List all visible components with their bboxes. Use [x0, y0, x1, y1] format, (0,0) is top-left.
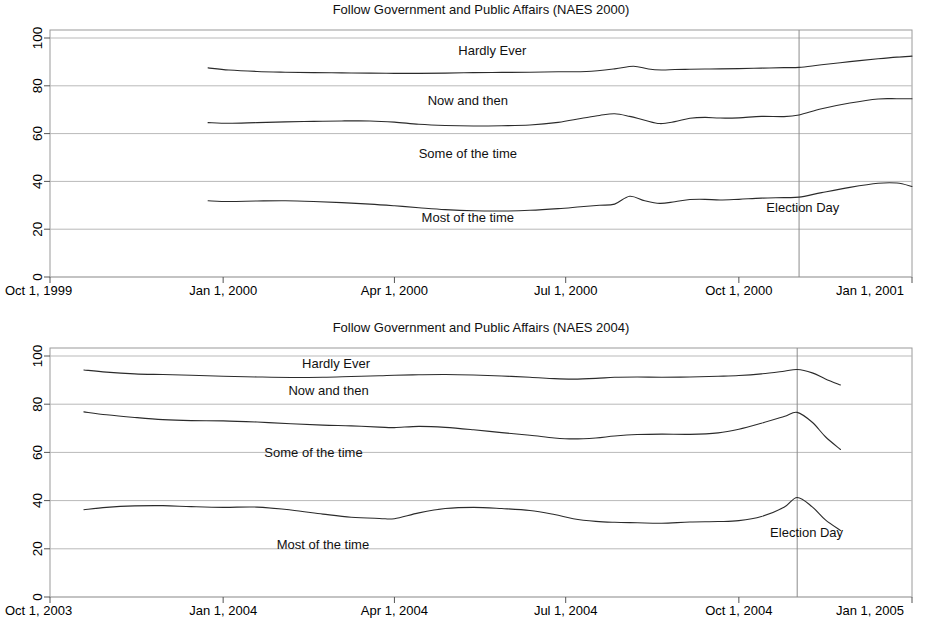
annotation-election-day: Election Day	[766, 200, 839, 215]
xtick-label: Apr 1, 2000	[361, 283, 428, 298]
ytick-label: 80	[30, 78, 45, 93]
annotation-some-of-the-time: Some of the time	[264, 445, 362, 460]
chart-title: Follow Government and Public Affairs (NA…	[333, 2, 630, 17]
plot-frame	[50, 348, 912, 597]
annotation-some-of-the-time: Some of the time	[419, 146, 517, 161]
annotation-election-day: Election Day	[770, 525, 843, 540]
ytick-label: 100	[30, 27, 45, 50]
ytick-label: 40	[30, 493, 45, 508]
ytick-label: 0	[30, 273, 45, 281]
xtick-label: Jan 1, 2000	[189, 283, 257, 298]
ytick-label: 60	[30, 445, 45, 460]
xtick-label: Oct 1, 2003	[5, 603, 72, 618]
xtick-label: Jul 1, 2000	[534, 283, 598, 298]
ytick-label: 60	[30, 126, 45, 141]
series-line	[208, 56, 912, 73]
ytick-label: 80	[30, 397, 45, 412]
xtick-label: Oct 1, 1999	[5, 283, 72, 298]
chart-naes-2000: Follow Government and Public Affairs (NA…	[0, 0, 927, 310]
ytick-label: 20	[30, 541, 45, 556]
ytick-label: 100	[30, 345, 45, 368]
chart-svg-naes-2004: Follow Government and Public Affairs (NA…	[0, 318, 927, 639]
annotation-most-of-the-time: Most of the time	[277, 537, 369, 552]
series-line	[84, 497, 841, 530]
ytick-label: 40	[30, 174, 45, 189]
xtick-label: Jan 1, 2001	[836, 283, 904, 298]
xtick-label: Apr 1, 2004	[361, 603, 428, 618]
annotation-most-of-the-time: Most of the time	[422, 210, 514, 225]
chart-naes-2004: Follow Government and Public Affairs (NA…	[0, 318, 927, 639]
xtick-label: Jan 1, 2005	[836, 603, 904, 618]
xtick-label: Oct 1, 2000	[705, 283, 772, 298]
annotation-hardly-ever: Hardly Ever	[458, 43, 527, 58]
annotation-hardly-ever: Hardly Ever	[302, 356, 371, 371]
annotation-now-and-then: Now and then	[288, 383, 368, 398]
xtick-label: Oct 1, 2004	[705, 603, 772, 618]
chart-title: Follow Government and Public Affairs (NA…	[333, 320, 630, 335]
chart-svg-naes-2000: Follow Government and Public Affairs (NA…	[0, 0, 927, 310]
series-line	[84, 369, 841, 384]
annotation-now-and-then: Now and then	[428, 93, 508, 108]
ytick-label: 0	[30, 593, 45, 601]
xtick-label: Jul 1, 2004	[534, 603, 598, 618]
xtick-label: Jan 1, 2004	[189, 603, 257, 618]
series-line	[208, 99, 912, 126]
ytick-label: 20	[30, 222, 45, 237]
series-line	[84, 412, 841, 450]
